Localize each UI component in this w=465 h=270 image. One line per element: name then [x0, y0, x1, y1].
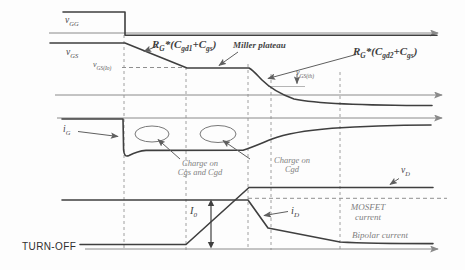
- ig-label: iG: [63, 124, 70, 134]
- charge2-line2: Cgd: [262, 165, 322, 174]
- mosfet-current-line2: current: [340, 213, 396, 223]
- turn-off-label: TURN-OFF: [22, 241, 76, 252]
- waveform-figure: vGG vGS vGS(Io) RG*(Cgd1+Cgs) Miller pla…: [0, 0, 465, 270]
- charge2-label: Charge on Cgd: [262, 156, 322, 175]
- mosfet-current-label: MOSFET current: [340, 203, 396, 223]
- i0-label: I0: [190, 205, 197, 217]
- bipolar-current-label: Bipolar current: [352, 231, 408, 241]
- miller-pointer-arrow: [219, 52, 238, 66]
- vgsio-label: vGS(Io): [93, 61, 111, 70]
- charge-ellipse-1: [135, 126, 169, 142]
- ig-trace: [62, 119, 431, 156]
- vd-label: vD: [401, 165, 410, 175]
- vd-pointer-arrow: [390, 179, 399, 185]
- vgg-label: vGG: [65, 15, 79, 25]
- id-pointer-arrow: [264, 212, 288, 216]
- charge-ellipse-2: [200, 126, 236, 143]
- ig-pointer-arrow: [78, 132, 118, 137]
- vgsth-label: vGS(th): [296, 69, 314, 78]
- vgg-trace: [63, 12, 437, 35]
- miller-plateau-label: Miller plateau: [233, 41, 286, 51]
- rg2-label: RG*(Cgd2+Cgs): [353, 45, 417, 57]
- rg1-label: RG*(Cgd1+Cgs): [152, 38, 216, 50]
- charge1-pointer-arrow: [158, 140, 180, 160]
- id-label: iD: [291, 205, 299, 217]
- charge1-line2: Cgs and Cgd: [170, 168, 230, 177]
- charge1-label: Charge on Cgs and Cgd: [170, 159, 230, 178]
- vgs-label: vGS: [66, 47, 78, 57]
